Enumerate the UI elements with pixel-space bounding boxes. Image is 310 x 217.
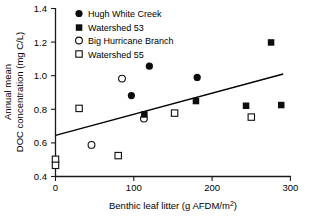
data-point-open-square — [115, 152, 121, 158]
data-point-filled-square — [243, 103, 250, 110]
legend: Hugh White Creek Watershed 53 Big Hurric… — [75, 9, 173, 60]
data-point-open-square — [52, 156, 58, 162]
x-axis-label: Benthic leaf litter (g AFDM/m2) — [109, 200, 237, 212]
x-tick-label: 0 — [53, 182, 58, 193]
scatter-plot-figure: 0.4 0.6 0.8 1.0 1.2 1.4 0 100 200 300 An… — [0, 0, 310, 217]
y-tick-label: 1.2 — [34, 37, 47, 48]
series-big-hurricane-branch-points — [88, 75, 147, 148]
legend-label-watershed-53: Watershed 53 — [88, 23, 144, 33]
series-watershed-55-points — [52, 105, 254, 168]
x-axis-label-main: Benthic leaf litter (g AFDM/m — [109, 200, 230, 211]
y-tick-label: 0.6 — [34, 137, 47, 148]
x-tick-label: 300 — [282, 182, 298, 193]
data-point-filled-circle — [146, 63, 153, 70]
y-tick-label: 0.4 — [34, 171, 47, 182]
y-tick-label: 1.4 — [34, 3, 47, 14]
data-point-open-square — [248, 114, 254, 120]
data-point-filled-square — [193, 98, 200, 105]
y-tick-label: 1.0 — [34, 70, 47, 81]
data-point-filled-circle — [128, 92, 135, 99]
legend-label-hugh-white-creek: Hugh White Creek — [88, 9, 162, 19]
data-point-open-square — [171, 110, 177, 116]
data-point-filled-square — [141, 111, 148, 118]
data-point-open-circle — [88, 142, 95, 149]
legend-marker-filled-square — [76, 24, 83, 31]
x-axis-ticks: 0 100 200 300 — [53, 177, 298, 194]
data-point-open-circle — [119, 75, 126, 82]
legend-marker-open-circle — [76, 37, 83, 44]
y-axis-label-line1: Annual mean — [2, 64, 13, 120]
plot-canvas: 0.4 0.6 0.8 1.0 1.2 1.4 0 100 200 300 An… — [0, 0, 310, 217]
data-point-filled-circle — [194, 74, 201, 81]
x-tick-label: 200 — [204, 182, 220, 193]
data-point-open-square — [76, 105, 82, 111]
legend-label-watershed-55: Watershed 55 — [88, 50, 144, 60]
data-point-filled-square — [268, 39, 275, 46]
y-axis-ticks: 0.4 0.6 0.8 1.0 1.2 1.4 — [34, 3, 56, 182]
legend-marker-filled-circle — [75, 10, 82, 17]
legend-marker-open-square — [76, 51, 82, 57]
x-axis-label-tail: ) — [234, 200, 237, 211]
y-tick-label: 0.8 — [34, 104, 47, 115]
y-axis-label-line2: DOC concentration (mg C/L) — [14, 32, 25, 152]
data-point-open-square — [52, 162, 58, 168]
axes — [55, 8, 291, 177]
data-point-filled-square — [278, 102, 285, 109]
series-hugh-white-creek-points — [128, 63, 201, 100]
x-tick-label: 100 — [126, 182, 142, 193]
legend-label-big-hurricane-branch: Big Hurricane Branch — [88, 36, 174, 46]
